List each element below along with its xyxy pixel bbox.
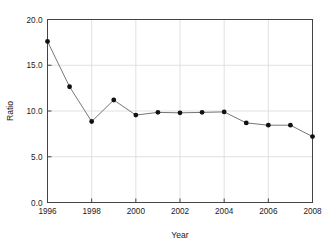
y-tick-label-10.0: 10.0 <box>27 107 43 116</box>
x-tick-label-2002: 2002 <box>171 207 190 216</box>
line-chart-canvas: 1996199820002002200420062008 0.05.010.01… <box>0 0 331 245</box>
data-point-1996 <box>45 39 50 44</box>
x-tick-label-2008: 2008 <box>303 207 322 216</box>
data-point-2001 <box>156 110 161 115</box>
y-tick-label-5.0: 5.0 <box>31 153 43 162</box>
data-point-1999 <box>111 98 116 103</box>
x-tick-label-2004: 2004 <box>215 207 234 216</box>
y-tick-label-20.0: 20.0 <box>27 16 43 25</box>
y-tick-label-0.0: 0.0 <box>31 199 43 208</box>
x-axis-title: Year <box>171 230 189 240</box>
x-tick-label-2000: 2000 <box>127 207 146 216</box>
data-point-2005 <box>244 121 249 126</box>
data-point-2007 <box>288 123 293 128</box>
data-point-2000 <box>133 113 138 118</box>
data-point-2002 <box>178 110 183 115</box>
x-tick-label-2006: 2006 <box>259 207 278 216</box>
data-point-1997 <box>67 84 72 89</box>
data-point-2008 <box>310 134 315 139</box>
y-tick-label-15.0: 15.0 <box>27 61 43 70</box>
x-tick-label-1998: 1998 <box>83 207 102 216</box>
y-axis-title: Ratio <box>5 101 15 121</box>
data-point-2003 <box>200 110 205 115</box>
chart-figure: 1996199820002002200420062008 0.05.010.01… <box>0 0 331 245</box>
x-tick-label-1996: 1996 <box>38 207 57 216</box>
data-point-2006 <box>266 123 271 128</box>
data-point-2004 <box>222 110 227 115</box>
data-point-1998 <box>89 119 94 124</box>
